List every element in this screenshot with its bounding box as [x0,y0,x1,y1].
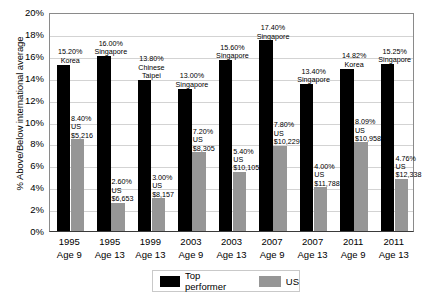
legend-label-us: US [286,276,299,287]
y-axis-tick-label: 10% [0,118,44,128]
x-axis-tick-label: 2007Age 13 [292,236,333,261]
x-axis-tick-label: 2007Age 9 [252,236,293,261]
legend-swatch-top-performer [160,276,180,287]
x-axis-label-year: 2007 [252,236,293,249]
x-axis-label-year: 2003 [211,236,252,249]
bar-us [192,152,206,231]
legend-swatch-us [259,276,281,287]
x-axis-tick-label: 1995Age 13 [90,236,131,261]
x-axis-label-year: 1999 [130,236,171,249]
bar-us [111,203,125,231]
bar-us [314,187,328,231]
bar-us [395,179,409,231]
x-axis-label-age: Age 13 [90,249,131,262]
x-axis-tick-label: 1999Age 13 [130,236,171,261]
x-axis-tick-label: 1995Age 9 [49,236,90,261]
bar-label-top-performer: 16.00%Singapore [86,40,137,57]
x-axis-label-age: Age 13 [373,249,414,262]
x-axis-label-age: Age 13 [211,249,252,262]
y-axis-tick-label: 18% [0,30,44,40]
x-axis-label-year: 2011 [333,236,374,249]
gridline [50,36,413,37]
bar-label-top-performer: 13.40%Singapore [288,68,339,85]
x-axis-tick-label: 2003Age 9 [171,236,212,261]
x-axis-label-year: 2011 [373,236,414,249]
bar-us [233,172,247,231]
y-axis-tick-label: 4% [0,183,44,193]
y-axis-tick-label: 16% [0,52,44,62]
bar-us [152,198,166,231]
chart-legend: Top performer US [152,270,300,292]
legend-label-top-performer: Top performer [185,270,239,292]
bar-top-performer [259,40,273,231]
legend-item-top-performer: Top performer [160,270,239,292]
bar-top-performer [340,69,354,231]
bar-label-country: Korea [45,57,96,65]
y-axis-tick-label: 2% [0,205,44,215]
bar-label-country: Singapore [167,81,218,89]
bar-label-us: 4.76%US$12,338 [395,155,426,180]
bar-label-amount: $12,338 [395,171,426,179]
bar-us [354,142,368,231]
bar-top-performer [97,56,111,231]
plot-area: 15.20%Korea8.40%US$5,21616.00%Singapore2… [49,13,414,232]
x-axis-label-age: Age 13 [292,249,333,262]
y-axis-tick-label: 12% [0,96,44,106]
bar-top-performer [381,64,395,231]
bar-label-country: Singapore [369,56,420,64]
bar-us [273,146,287,231]
x-axis-label-year: 2007 [292,236,333,249]
x-axis-label-year: 1995 [90,236,131,249]
bar-label-top-performer: 17.40%Singapore [248,24,299,41]
bar-top-performer [57,65,71,231]
x-axis-label-year: 2003 [171,236,212,249]
x-axis-label-age: Age 9 [252,249,293,262]
x-axis-tick-label: 2011Age 9 [333,236,374,261]
bar-label-country: Singapore [248,33,299,41]
x-axis-tick-label: 2011Age 13 [373,236,414,261]
y-axis-tick-label: 14% [0,74,44,84]
x-axis-label-age: Age 9 [171,249,212,262]
bar-label-country: Singapore [207,52,258,60]
bar-top-performer [178,89,192,231]
bar-label-top-performer: 15.60%Singapore [207,44,258,61]
x-axis-label-age: Age 9 [49,249,90,262]
x-axis-tick-label: 2003Age 13 [211,236,252,261]
legend-item-us: US [259,276,299,287]
bar-label-top-performer: 15.25%Singapore [369,48,420,65]
y-axis-tick-label: 20% [0,8,44,18]
bar-top-performer [300,84,314,231]
bar-top-performer [138,80,152,231]
y-axis-tick-label: 0% [0,227,44,237]
x-axis-label-age: Age 9 [333,249,374,262]
bar-label-country: Singapore [288,76,339,84]
x-axis-label-age: Age 13 [130,249,171,262]
bar-label-top-performer: 13.00%Singapore [167,72,218,89]
y-axis-tick-label: 6% [0,161,44,171]
x-axis-label-year: 1995 [49,236,90,249]
bar-us [71,139,85,231]
bar-top-performer [219,60,233,231]
y-axis-tick-label: 8% [0,139,44,149]
